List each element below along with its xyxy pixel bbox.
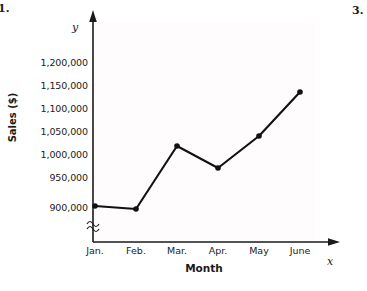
y-tick-label: 1,000,000 [22,149,88,160]
data-point [256,133,262,139]
y-axis-variable-label: y [72,21,78,34]
y-tick-label: 1,150,000 [22,80,88,91]
y-axis-title: Sales ($) [7,87,18,149]
data-point-markers [92,89,303,212]
y-tick-label: 950,000 [22,172,88,183]
data-point [92,203,98,209]
line-chart-figure: 1. 3. 1,200,000 1, [0,0,367,291]
data-point [174,143,180,149]
data-point [133,206,139,212]
data-line [95,92,300,209]
data-point [297,89,303,95]
data-point [215,165,221,171]
y-tick-label: 1,200,000 [22,57,88,68]
y-tick-label: 1,050,000 [22,126,88,137]
x-tick-label-june: June [276,245,324,256]
x-axis-title: Month [93,262,315,274]
y-tick-label: 900,000 [22,202,88,213]
y-tick-label: 1,100,000 [22,103,88,114]
x-axis-variable-label: x [327,255,333,268]
